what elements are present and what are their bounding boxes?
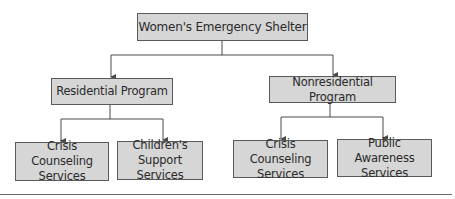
node-label-line: Children's bbox=[132, 138, 187, 153]
bottom-divider bbox=[0, 194, 452, 195]
node-nonresidential-program: Nonresidential Program bbox=[269, 76, 396, 103]
node-res-crisis-counseling-services: Crisis Counseling Services bbox=[15, 142, 109, 181]
node-label: Residential Program bbox=[56, 84, 168, 99]
node-label: Nonresidential Program bbox=[270, 75, 395, 105]
node-label-line: Services bbox=[361, 166, 408, 181]
node-childrens-support-services: Children's Support Services bbox=[117, 141, 203, 180]
node-public-awareness-services: Public Awareness Services bbox=[337, 139, 432, 177]
node-label-line: Services bbox=[39, 169, 86, 184]
node-womens-emergency-shelter: Women's Emergency Shelter bbox=[137, 13, 308, 41]
node-label-line: Services bbox=[257, 167, 304, 182]
node-nonres-crisis-counseling-services: Crisis Counseling Services bbox=[233, 140, 328, 178]
node-label-line: Public Awareness bbox=[338, 136, 431, 166]
node-label-line: Support Services bbox=[118, 153, 202, 183]
node-label-line: Crisis Counseling bbox=[234, 137, 327, 167]
node-residential-program: Residential Program bbox=[51, 78, 173, 105]
node-label-line: Crisis Counseling bbox=[16, 139, 108, 169]
node-label: Women's Emergency Shelter bbox=[138, 20, 306, 35]
